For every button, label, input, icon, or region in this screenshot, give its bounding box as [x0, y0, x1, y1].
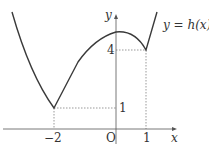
y-axis-arrow-icon: [114, 14, 118, 19]
graph-of-h: y x O −2 1 1 4 y = h(x): [0, 0, 209, 144]
origin-label: O: [106, 131, 116, 144]
x-tick-neg2: −2: [44, 131, 62, 144]
y-tick-1: 1: [119, 101, 127, 115]
x-tick-1: 1: [143, 131, 151, 144]
y-axis-label: y: [104, 8, 112, 22]
curve-label: y = h(x): [162, 18, 209, 32]
y-tick-4: 4: [107, 43, 115, 57]
curve-h: [12, 12, 157, 108]
x-axis-label: x: [171, 131, 178, 144]
